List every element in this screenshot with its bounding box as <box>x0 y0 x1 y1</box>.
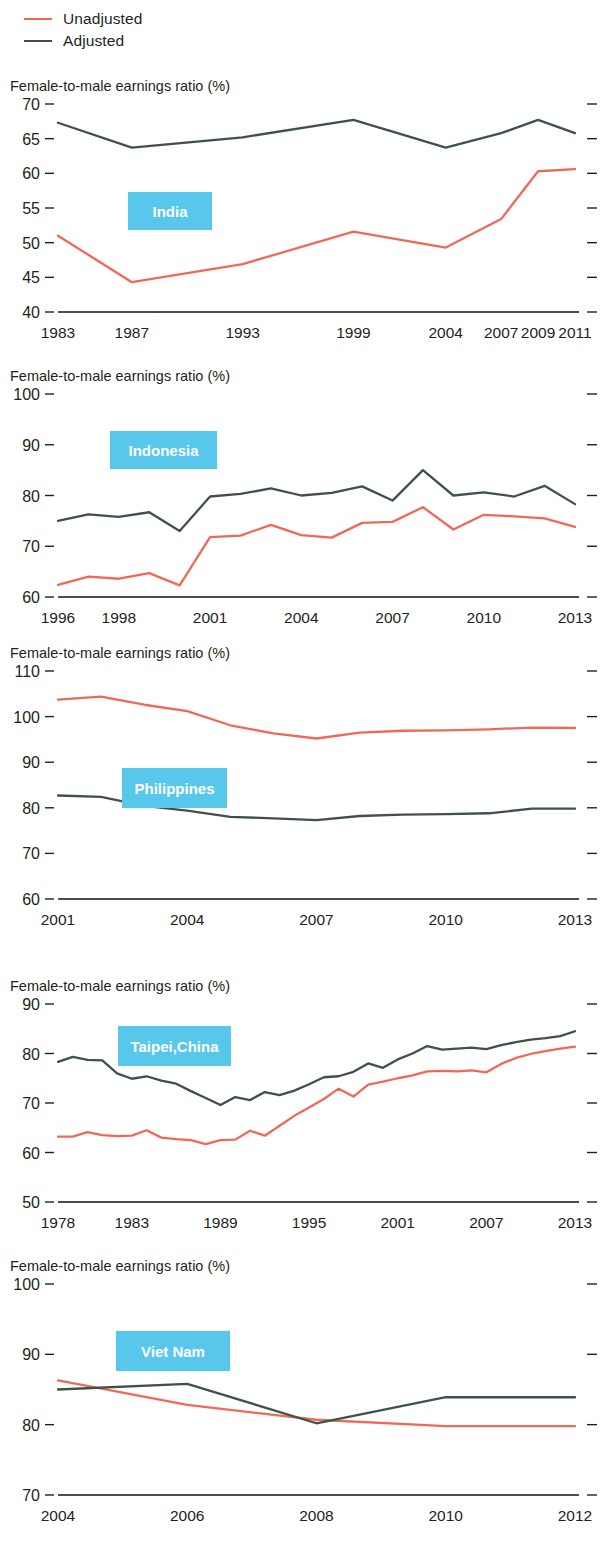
y-tick-label: 80 <box>22 800 40 817</box>
x-tick-label: 2013 <box>558 609 592 626</box>
legend-swatch-unadjusted-icon <box>24 18 52 20</box>
x-tick-label: 2001 <box>381 1214 415 1231</box>
y-tick-label: 55 <box>22 200 40 217</box>
x-tick-label: 1993 <box>225 324 259 341</box>
chart-panel-taipei: Female-to-male earnings ratio (%)5060708… <box>0 978 607 1248</box>
country-badge-taipei-china: Taipei,China <box>118 1026 231 1066</box>
legend-item-adjusted: Adjusted <box>24 30 142 52</box>
series-line-adjusted <box>58 120 575 148</box>
y-tick-label: 90 <box>22 996 40 1013</box>
x-tick-label: 2007 <box>469 1214 503 1231</box>
country-badge-indonesia: Indonesia <box>110 431 217 469</box>
country-badge-label: Philippines <box>134 780 214 797</box>
series-line-adjusted <box>58 1384 575 1423</box>
country-badge-label: India <box>152 203 187 220</box>
y-tick-label: 80 <box>22 488 40 505</box>
series-line-unadjusted <box>58 507 575 585</box>
x-tick-label: 1987 <box>115 324 149 341</box>
y-tick-label: 70 <box>22 845 40 862</box>
axis-title-vietnam: Female-to-male earnings ratio (%) <box>10 1258 230 1274</box>
plot-taipei: 50607080901978198319891995200120072013 <box>0 978 607 1248</box>
axis-title-taipei: Female-to-male earnings ratio (%) <box>10 978 230 994</box>
series-line-adjusted <box>58 470 575 531</box>
y-tick-label: 70 <box>22 538 40 555</box>
chart-panel-vietnam: Female-to-male earnings ratio (%)7080901… <box>0 1258 607 1541</box>
x-tick-label: 1983 <box>115 1214 149 1231</box>
x-tick-label: 2006 <box>170 1507 204 1524</box>
y-tick-label: 45 <box>22 269 40 286</box>
x-tick-label: 2010 <box>467 609 502 626</box>
y-tick-label: 50 <box>22 1194 40 1211</box>
y-tick-label: 100 <box>13 386 40 403</box>
y-tick-label: 110 <box>14 663 40 680</box>
y-tick-label: 80 <box>22 1417 40 1434</box>
country-badge-label: Indonesia <box>128 442 198 459</box>
y-tick-label: 90 <box>22 437 40 454</box>
plot-philippines: 6070809010011020012004200720102013 <box>0 645 607 945</box>
x-tick-label: 1999 <box>336 324 370 341</box>
country-badge-india: India <box>128 192 212 230</box>
x-tick-label: 2004 <box>429 324 464 341</box>
chart-panel-india: Female-to-male earnings ratio (%)4045505… <box>0 78 607 358</box>
y-tick-label: 70 <box>22 96 40 113</box>
x-tick-label: 2004 <box>170 911 205 928</box>
y-tick-label: 100 <box>13 1276 40 1293</box>
x-tick-label: 2010 <box>429 911 464 928</box>
x-tick-label: 2007 <box>299 911 333 928</box>
x-tick-label: 1983 <box>41 324 75 341</box>
legend-item-unadjusted: Unadjusted <box>24 8 142 30</box>
chart-panel-indonesia: Female-to-male earnings ratio (%)6070809… <box>0 368 607 643</box>
x-tick-label: 2001 <box>193 609 227 626</box>
x-tick-label: 2001 <box>41 911 75 928</box>
x-tick-label: 2010 <box>429 1507 464 1524</box>
legend-swatch-adjusted-icon <box>24 40 52 42</box>
axis-title-india: Female-to-male earnings ratio (%) <box>10 78 230 94</box>
y-tick-label: 60 <box>22 589 40 606</box>
y-tick-label: 70 <box>22 1487 40 1504</box>
x-tick-label: 2007 <box>484 324 518 341</box>
axis-title-indonesia: Female-to-male earnings ratio (%) <box>10 368 230 384</box>
plot-vietnam: 70809010020042006200820102012 <box>0 1258 607 1541</box>
y-tick-label: 60 <box>22 165 40 182</box>
country-badge-viet-nam: Viet Nam <box>116 1331 230 1371</box>
plot-india: 4045505560657019831987199319992004200720… <box>0 78 607 358</box>
legend-label-adjusted: Adjusted <box>63 32 124 50</box>
y-tick-label: 100 <box>13 709 40 726</box>
y-tick-label: 80 <box>22 1046 40 1063</box>
x-tick-label: 1996 <box>41 609 75 626</box>
series-line-unadjusted <box>58 697 575 739</box>
x-tick-label: 2004 <box>284 609 319 626</box>
x-tick-label: 1995 <box>292 1214 326 1231</box>
y-tick-label: 50 <box>22 235 40 252</box>
country-badge-philippines: Philippines <box>122 768 227 808</box>
y-tick-label: 60 <box>22 891 40 908</box>
x-tick-label: 2004 <box>41 1507 76 1524</box>
x-tick-label: 2009 <box>521 324 555 341</box>
legend-label-unadjusted: Unadjusted <box>63 10 142 28</box>
y-tick-label: 60 <box>22 1145 40 1162</box>
chart-panel-philippines: Female-to-male earnings ratio (%)6070809… <box>0 645 607 945</box>
x-tick-label: 1978 <box>41 1214 75 1231</box>
y-tick-label: 65 <box>22 131 40 148</box>
x-tick-label: 2007 <box>375 609 409 626</box>
plot-indonesia: 607080901001996199820012004200720102013 <box>0 368 607 643</box>
x-tick-label: 2008 <box>299 1507 333 1524</box>
y-tick-label: 40 <box>22 304 40 321</box>
x-tick-label: 2013 <box>558 1214 592 1231</box>
x-tick-label: 2013 <box>558 911 592 928</box>
axis-title-philippines: Female-to-male earnings ratio (%) <box>10 645 230 661</box>
x-tick-label: 2011 <box>558 324 591 341</box>
x-tick-label: 1998 <box>102 609 136 626</box>
y-tick-label: 90 <box>22 754 40 771</box>
x-tick-label: 2012 <box>558 1507 592 1524</box>
x-tick-label: 1989 <box>203 1214 237 1231</box>
y-tick-label: 90 <box>22 1346 40 1363</box>
y-tick-label: 70 <box>22 1095 40 1112</box>
chart-legend: Unadjusted Adjusted <box>24 8 142 52</box>
country-badge-label: Viet Nam <box>141 1343 205 1360</box>
country-badge-label: Taipei,China <box>130 1038 218 1055</box>
